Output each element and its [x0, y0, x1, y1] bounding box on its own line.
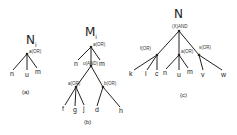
leaf-n: n	[163, 69, 167, 76]
diagram-b-caption: (b)	[84, 119, 91, 125]
leaf-u: u	[25, 71, 29, 78]
leaf-k: k	[129, 70, 133, 77]
node-s-or: s(OR)	[199, 46, 211, 51]
diagram-c-root-label: (X)AND	[172, 25, 188, 30]
node-a-or: a(OR)	[68, 82, 80, 87]
diagram-c-caption: (c)	[180, 92, 187, 98]
leaf-u: u	[177, 71, 181, 78]
diagram-a-root-label: a(OR)	[29, 50, 41, 55]
leaf-m: m	[187, 68, 193, 75]
diagram-a-caption: (a)	[22, 89, 29, 95]
leaf-l: l	[145, 70, 147, 77]
leaf-d: d	[95, 106, 99, 113]
leaf-f: f	[62, 105, 64, 112]
node-u-and: u(AND)	[83, 62, 98, 67]
diagram-c-title: N	[174, 8, 183, 20]
leaf-n: n	[10, 70, 14, 77]
node-b-or: b(OR)	[104, 82, 116, 87]
diagram-a-title: Ni	[26, 34, 37, 48]
leaf-n: n	[74, 60, 78, 67]
node-f-or: f(OR)	[140, 47, 151, 52]
leaf-w: w	[221, 71, 226, 78]
node-a-or: a(OR)	[181, 50, 193, 55]
diagram-b-root-label: a(OR)	[93, 43, 105, 48]
leaf-h: h	[119, 107, 123, 114]
leaf-m: m	[35, 68, 41, 75]
leaf-c: c	[155, 70, 159, 77]
leaf-v: v	[201, 71, 205, 78]
leaf-g: g	[73, 106, 77, 113]
leaf-m: m	[99, 60, 105, 67]
diagram-b-title: Mi	[85, 26, 97, 40]
leaf-j: j	[83, 105, 85, 112]
